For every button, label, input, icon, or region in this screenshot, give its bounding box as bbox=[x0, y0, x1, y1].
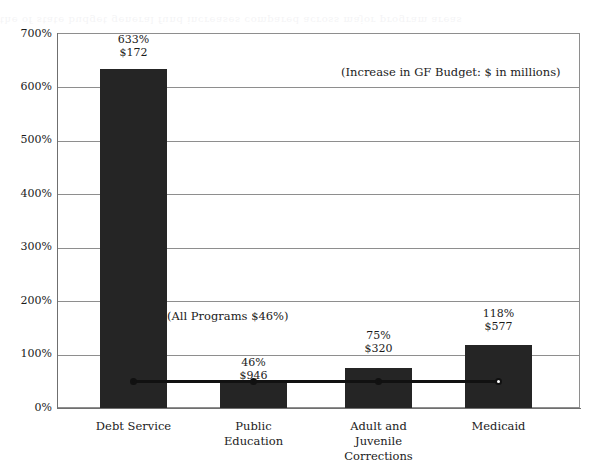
annotation-gf-budget-note: (Increase in GF Budget: $ in millions) bbox=[341, 65, 561, 79]
bar-public-education[interactable] bbox=[220, 383, 287, 408]
bar-value-label-debt-service: 633% $172 bbox=[84, 33, 183, 59]
bar-dollar-debt-service: $172 bbox=[84, 46, 183, 59]
x-label-public-education-line1: Public Education bbox=[204, 419, 303, 449]
bar-percent-corrections: 75% bbox=[329, 329, 428, 342]
y-axis-line bbox=[57, 33, 58, 409]
x-label-medicaid: Medicaid bbox=[449, 419, 548, 434]
bar-value-label-medicaid: 118% $577 bbox=[449, 307, 548, 333]
x-label-medicaid-line1: Medicaid bbox=[449, 419, 548, 434]
reference-marker-debt-service bbox=[130, 378, 137, 385]
y-tick-0: 0% bbox=[4, 402, 52, 413]
x-label-adult-and-juvenile-corrections: Adult and Juvenile Corrections bbox=[325, 419, 432, 464]
bar-dollar-corrections: $320 bbox=[329, 342, 428, 355]
reference-marker-medicaid bbox=[495, 378, 502, 385]
y-tick-100: 100% bbox=[4, 348, 52, 359]
bar-chart-figure: the of state budget general fund increas… bbox=[0, 0, 602, 470]
x-axis-line bbox=[57, 408, 581, 409]
bar-adult-and-juvenile-corrections[interactable] bbox=[345, 368, 412, 408]
y-tick-700: 700% bbox=[4, 28, 52, 39]
bar-medicaid[interactable] bbox=[465, 345, 532, 408]
bar-debt-service[interactable] bbox=[100, 69, 167, 408]
scan-bleedthrough-artifact: the of state budget general fund increas… bbox=[0, 0, 602, 26]
y-tick-600: 600% bbox=[4, 81, 52, 92]
bar-percent-medicaid: 118% bbox=[449, 307, 548, 320]
y-tick-500: 500% bbox=[4, 134, 52, 145]
y-tick-400: 400% bbox=[4, 188, 52, 199]
bar-value-label-public-education: 46% $946 bbox=[204, 356, 303, 382]
annotation-all-programs: (All Programs $46%) bbox=[167, 309, 289, 323]
bar-percent-debt-service: 633% bbox=[84, 33, 183, 46]
bar-dollar-public-education: $946 bbox=[204, 369, 303, 382]
y-tick-200: 200% bbox=[4, 295, 52, 306]
x-label-public-education: Public Education bbox=[204, 419, 303, 449]
bar-value-label-corrections: 75% $320 bbox=[329, 329, 428, 355]
x-label-debt-service-line1: Debt Service bbox=[84, 419, 183, 434]
x-label-corrections-line1: Adult and Juvenile bbox=[325, 419, 432, 449]
x-label-corrections-line2: Corrections bbox=[325, 449, 432, 464]
x-label-debt-service: Debt Service bbox=[84, 419, 183, 434]
all-programs-reference-line bbox=[133, 380, 499, 383]
y-axis-tick-labels: 700% 600% 500% 400% 300% 200% 100% 0% bbox=[0, 0, 52, 470]
bar-percent-public-education: 46% bbox=[204, 356, 303, 369]
reference-marker-corrections bbox=[375, 378, 382, 385]
y-tick-300: 300% bbox=[4, 241, 52, 252]
bar-dollar-medicaid: $577 bbox=[449, 320, 548, 333]
